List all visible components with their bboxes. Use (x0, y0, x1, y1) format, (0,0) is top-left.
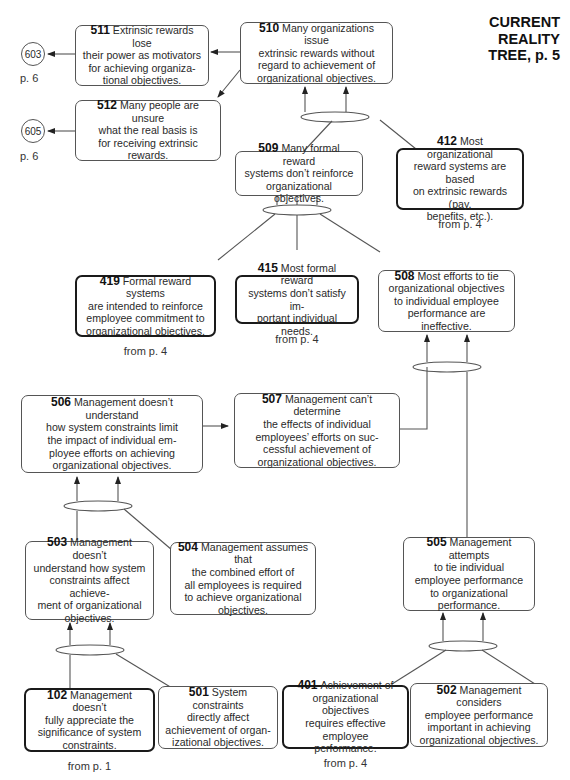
page-ref-603-label: p. 6 (20, 72, 48, 84)
node-number: 506 (51, 395, 71, 409)
page-ref-605: 605 (21, 119, 45, 143)
title-line-1: CURRENT (488, 14, 560, 31)
node-412: 412Most organizational reward systems ar… (396, 148, 524, 210)
node-text: Achievement of organizational objectives… (305, 679, 393, 754)
node-number: 510 (259, 21, 279, 35)
node-number: 415 (258, 261, 278, 275)
node-text: System constraints directly affect achie… (165, 686, 270, 748)
node-number: 509 (258, 141, 278, 155)
node-401: 401Achievement of organizational objecti… (282, 685, 409, 749)
source-note-412: from p. 4 (396, 218, 524, 230)
node-512: 512Many people are unsure what the real … (75, 100, 221, 161)
node-505: 505Management attempts to tie individual… (403, 537, 535, 611)
node-number: 419 (100, 274, 120, 288)
node-507: 507Management can’t determine the effect… (234, 393, 400, 468)
page-ref-603: 603 (21, 42, 45, 66)
node-510: 510Many organizations issue extrinsic re… (240, 22, 393, 84)
node-number: 502 (437, 683, 457, 697)
source-note-102: from p. 1 (24, 760, 155, 772)
page-ref-605-label: p. 6 (20, 150, 48, 162)
node-number: 503 (47, 535, 67, 549)
node-502: 502Management considers employee perform… (410, 683, 548, 747)
node-419: 419Formal reward systems are intended to… (75, 275, 216, 337)
node-503: 503Management doesn’t understand how sys… (25, 541, 154, 620)
node-text: Management doesn’t understand how system… (34, 536, 146, 624)
node-number: 512 (97, 98, 117, 112)
title-line-3: TREE, p. 5 (488, 47, 560, 64)
node-number: 501 (189, 685, 209, 699)
node-number: 412 (437, 134, 457, 148)
node-506: 506Management doesn’t understand how sys… (21, 395, 203, 473)
node-text: Most organizational reward systems are b… (413, 135, 507, 223)
source-note-415: from p. 4 (235, 333, 359, 345)
node-number: 511 (90, 23, 109, 37)
node-508: 508Most efforts to tie organizational ob… (378, 270, 515, 332)
node-102: 102Management doesn’t fully appreciate t… (24, 688, 155, 752)
title-line-2: REALITY (488, 31, 560, 48)
node-504: 504Management assumes that the combined … (170, 542, 316, 615)
node-number: 401 (297, 678, 317, 692)
node-511: 511Extrinsic rewards lose their power as… (75, 25, 209, 86)
node-number: 507 (262, 392, 282, 406)
current-reality-tree-diagram: CURRENT REALITY TREE, p. 5 603 p. 6 605 … (0, 0, 570, 780)
node-501: 501System constraints directly affect ac… (158, 686, 278, 749)
source-note-419: from p. 4 (75, 345, 216, 357)
source-note-401: from p. 4 (282, 757, 409, 769)
node-number: 504 (178, 540, 198, 554)
node-415: 415Most formal reward systems don’t sati… (235, 275, 359, 324)
node-number: 508 (394, 269, 414, 283)
node-509: 509Many formal reward systems don’t rein… (235, 151, 363, 196)
node-number: 102 (47, 688, 67, 702)
node-number: 505 (427, 535, 447, 549)
node-text: Management assumes that the combined eff… (184, 541, 308, 616)
diagram-title: CURRENT REALITY TREE, p. 5 (488, 14, 560, 64)
